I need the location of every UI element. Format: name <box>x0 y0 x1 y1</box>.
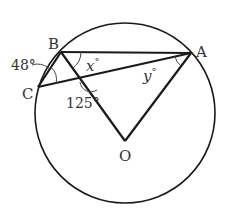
angle-arc-y <box>175 57 181 67</box>
angle-label-48: 48° <box>11 57 36 73</box>
label-c: C <box>22 85 33 103</box>
geometry-diagram: B A C O 48° 125° x° y° <box>0 0 229 209</box>
angle-label-125: 125° <box>66 95 100 111</box>
label-b: B <box>48 35 59 53</box>
diagram-svg: B A C O 48° 125° x° y° <box>0 0 229 209</box>
angle-label-y: y° <box>142 66 156 85</box>
label-o: O <box>119 147 131 165</box>
angle-arc-x <box>73 52 81 68</box>
angle-arc-48-a <box>51 67 56 84</box>
angle-label-x: x° <box>86 56 99 75</box>
label-a: A <box>195 43 207 61</box>
circle-o <box>35 23 215 203</box>
